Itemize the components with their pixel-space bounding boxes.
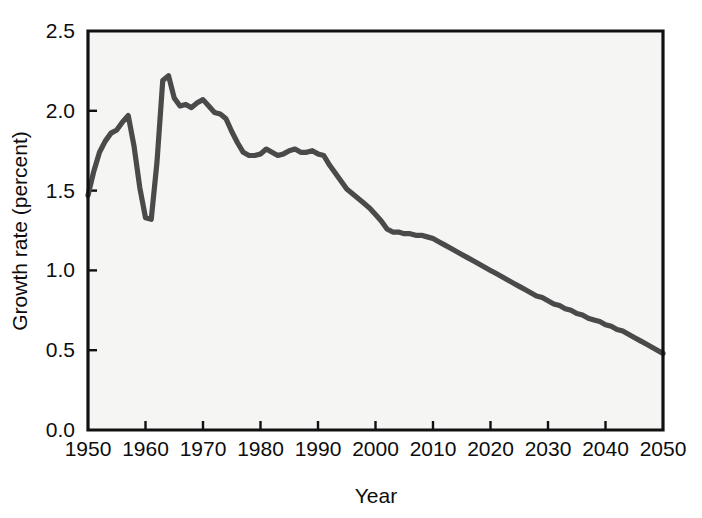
growth-rate-line-chart: 1950196019701980199020002010202020302040… bbox=[0, 0, 702, 518]
x-tick-label: 2040 bbox=[582, 437, 629, 460]
y-tick-label: 1.5 bbox=[46, 179, 75, 202]
population-growth-rate-figure: 1950196019701980199020002010202020302040… bbox=[0, 0, 702, 518]
y-axis-title: Growth rate (percent) bbox=[8, 131, 31, 331]
x-tick-label: 1960 bbox=[122, 437, 169, 460]
x-tick-label: 1990 bbox=[295, 437, 342, 460]
x-tick-label: 2030 bbox=[525, 437, 572, 460]
x-tick-label: 2020 bbox=[467, 437, 514, 460]
x-tick-label: 2050 bbox=[640, 437, 687, 460]
x-axis-tick-labels: 1950196019701980199020002010202020302040… bbox=[65, 437, 687, 460]
y-tick-label: 0.0 bbox=[46, 418, 75, 441]
x-tick-label: 2000 bbox=[352, 437, 399, 460]
x-axis-title: Year bbox=[355, 484, 397, 507]
y-tick-label: 2.0 bbox=[46, 99, 75, 122]
x-tick-label: 1970 bbox=[180, 437, 227, 460]
x-tick-label: 2010 bbox=[410, 437, 457, 460]
y-tick-label: 2.5 bbox=[46, 19, 75, 42]
x-tick-label: 1980 bbox=[237, 437, 284, 460]
y-tick-label: 0.5 bbox=[46, 338, 75, 361]
y-tick-label: 1.0 bbox=[46, 258, 75, 281]
